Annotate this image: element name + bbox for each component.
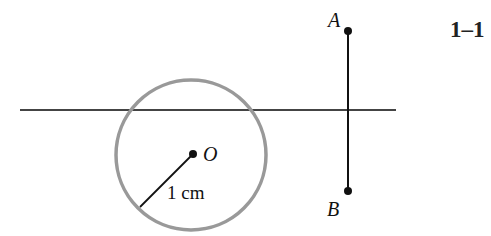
center-label: O	[203, 143, 217, 165]
point-b	[344, 187, 352, 195]
label-a: A	[326, 9, 341, 31]
center-point-o	[189, 150, 197, 158]
label-b: B	[327, 198, 339, 220]
radius-label: 1 cm	[167, 182, 205, 203]
point-a	[344, 27, 352, 35]
geometry-diagram: O 1 cm A B 1–1	[0, 0, 491, 236]
figure-number: 1–1	[450, 17, 485, 42]
